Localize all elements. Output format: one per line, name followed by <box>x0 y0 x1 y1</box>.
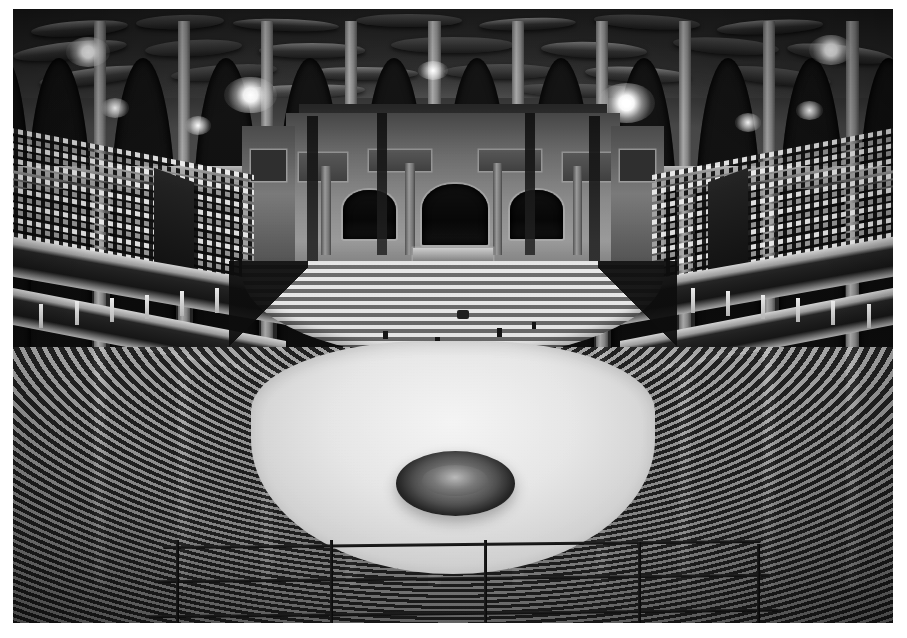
royal-albert-hall-photograph <box>13 9 893 623</box>
railing-post <box>757 544 760 623</box>
foreground-railing <box>13 9 893 623</box>
railing-rail-top <box>163 540 761 549</box>
photo-page <box>0 0 907 638</box>
railing-post <box>484 540 487 623</box>
railing-rail-bottom <box>145 609 779 619</box>
railing-post <box>330 540 333 623</box>
railing-post <box>176 540 179 623</box>
railing-post <box>638 542 641 623</box>
railing-rail-middle <box>154 574 770 583</box>
